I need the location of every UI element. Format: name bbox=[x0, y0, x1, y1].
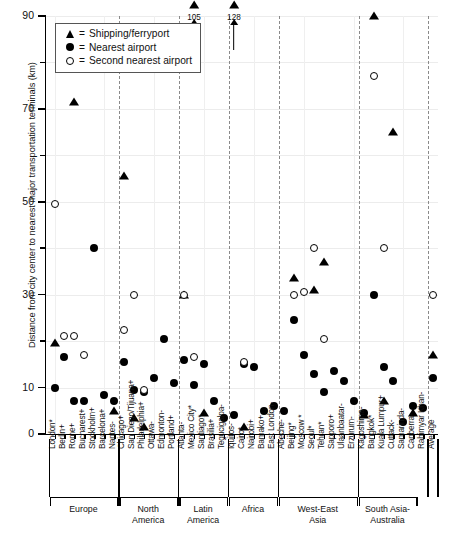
y-axis-tick bbox=[40, 247, 46, 248]
x-axis-label: Erzurum- bbox=[346, 416, 356, 449]
x-axis-label: Nairobi+ bbox=[246, 419, 256, 449]
triangle-icon bbox=[62, 30, 77, 38]
x-axis-label: Ulaanbaatar- bbox=[336, 403, 346, 449]
nearest-airport-marker bbox=[90, 244, 98, 252]
nearest-airport-marker bbox=[190, 381, 198, 389]
legend-equals: = bbox=[79, 41, 85, 55]
second-nearest-airport-marker bbox=[80, 351, 88, 359]
x-axis-label: Brasilia+ bbox=[206, 419, 216, 449]
gridline-vertical bbox=[104, 16, 105, 434]
x-axis-label: Seoul* bbox=[306, 426, 316, 449]
region-divider bbox=[427, 439, 428, 497]
nearest-airport-marker bbox=[310, 370, 318, 378]
nearest-airport-marker bbox=[200, 360, 208, 368]
nearest-airport-marker bbox=[290, 316, 298, 324]
y-axis-tick bbox=[38, 108, 46, 110]
shipping-ferryport-marker bbox=[109, 406, 119, 414]
x-axis-label: Bangkok* bbox=[366, 415, 376, 449]
x-axis-label: East London- bbox=[266, 402, 276, 449]
gridline-vertical bbox=[254, 16, 255, 434]
x-axis-label: Barcelona+ bbox=[97, 409, 107, 449]
shipping-ferryport-marker bbox=[119, 172, 129, 180]
nearest-airport-marker bbox=[350, 397, 358, 405]
gridline-vertical bbox=[403, 16, 404, 434]
nearest-airport-marker bbox=[170, 379, 178, 387]
x-axis-label: Stockholm+ bbox=[87, 407, 97, 449]
region-name: South Asia-Australia bbox=[359, 504, 417, 525]
nearest-airport-marker bbox=[389, 377, 397, 385]
gridline-vertical bbox=[304, 16, 305, 434]
second-nearest-airport-marker bbox=[300, 288, 308, 296]
second-nearest-airport-marker bbox=[140, 386, 148, 394]
nearest-airport-marker bbox=[370, 291, 378, 299]
region-separator bbox=[428, 16, 429, 434]
shipping-ferryport-marker bbox=[50, 339, 60, 347]
x-axis-label: Kuala Lumpur+ bbox=[376, 395, 386, 449]
nearest-airport-marker bbox=[150, 374, 158, 382]
region-name: West-EastAsia bbox=[279, 504, 357, 525]
second-nearest-airport-marker bbox=[70, 332, 78, 340]
shipping-ferryport-marker bbox=[369, 12, 379, 20]
gridline-vertical bbox=[154, 16, 155, 434]
second-nearest-airport-marker bbox=[60, 332, 68, 340]
region-separator bbox=[119, 16, 120, 434]
second-nearest-airport-marker bbox=[180, 291, 188, 299]
second-nearest-airport-marker bbox=[370, 72, 378, 80]
gridline-vertical bbox=[204, 16, 205, 434]
shipping-ferryport-marker bbox=[229, 1, 239, 9]
y-axis-tick bbox=[38, 387, 46, 389]
region-divider bbox=[178, 439, 179, 497]
nearest-airport-marker bbox=[250, 363, 258, 371]
nearest-airport-marker bbox=[429, 374, 437, 382]
open-circle-icon bbox=[62, 57, 77, 65]
nearest-airport-marker bbox=[80, 397, 88, 405]
x-axis-labels: London*Berlin+Rome+Bucharest+Stockholm+B… bbox=[45, 439, 437, 559]
x-axis-label: Bucharest+ bbox=[77, 409, 87, 449]
y-axis-tick-label: 50 bbox=[8, 195, 34, 207]
y-axis-tick-label: 90 bbox=[8, 9, 34, 21]
y-axis-tick bbox=[38, 433, 46, 435]
legend-label: Nearest airport bbox=[89, 41, 156, 55]
x-axis-label: Canberra- bbox=[406, 413, 416, 449]
x-axis-label: Portland+ bbox=[166, 415, 176, 449]
y-axis-tick bbox=[38, 294, 46, 296]
region-name: Europe bbox=[50, 504, 118, 515]
shipping-ferryport-marker bbox=[319, 258, 329, 266]
region-divider bbox=[228, 439, 229, 497]
nearest-airport-marker bbox=[100, 391, 108, 399]
nearest-airport-marker bbox=[180, 356, 188, 364]
x-axis-label: Samarinda- bbox=[396, 408, 406, 449]
second-nearest-airport-marker bbox=[429, 291, 437, 299]
shipping-ferryport-marker bbox=[309, 286, 319, 294]
region-divider bbox=[358, 439, 359, 497]
region-separator bbox=[229, 16, 230, 434]
nearest-airport-marker bbox=[320, 388, 328, 396]
x-axis-label: San Diego/Tijuana+ bbox=[126, 380, 136, 449]
x-axis-label: Cairo* bbox=[236, 427, 246, 449]
region-divider bbox=[278, 439, 279, 497]
second-nearest-airport-marker bbox=[240, 358, 248, 366]
region-name: LatinAmerica bbox=[179, 504, 227, 525]
x-axis-label: Beijing* bbox=[286, 422, 296, 449]
second-nearest-airport-marker bbox=[290, 291, 298, 299]
second-nearest-airport-marker bbox=[380, 244, 388, 252]
gridline-vertical bbox=[55, 16, 56, 434]
filled-circle-icon bbox=[62, 43, 77, 51]
legend-equals: = bbox=[79, 54, 85, 68]
region-bracket-end bbox=[416, 497, 417, 506]
x-axis-label: Ottawa- bbox=[146, 421, 156, 449]
shipping-ferryport-marker bbox=[189, 1, 199, 9]
y-axis-tick bbox=[38, 201, 46, 203]
region-bracket bbox=[119, 497, 177, 498]
y-axis-tick bbox=[38, 15, 46, 17]
chart-figure: Distance from city center to nearest maj… bbox=[0, 0, 450, 559]
y-axis-tick-label: 70 bbox=[8, 102, 34, 114]
nearest-airport-marker bbox=[280, 407, 288, 415]
region-separator bbox=[179, 16, 180, 434]
legend-item: =Nearest airport bbox=[62, 41, 192, 55]
y-axis-tick bbox=[40, 340, 46, 341]
gridline-vertical bbox=[354, 16, 355, 434]
x-axis-label: Moscow * bbox=[296, 415, 306, 449]
nearest-airport-marker bbox=[230, 411, 238, 419]
region-bracket bbox=[279, 497, 357, 498]
